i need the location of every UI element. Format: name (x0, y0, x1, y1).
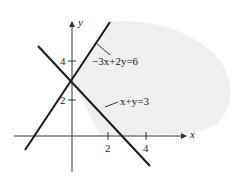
line-label-1: −3x+2y=6 (92, 55, 139, 67)
x-tick-label-2: 2 (105, 142, 111, 154)
y-tick-label-4: 4 (60, 55, 66, 67)
shaded-feasible-region (72, 21, 230, 135)
y-axis-label: y (77, 16, 83, 28)
x-axis-label: x (189, 128, 195, 140)
x-tick-label-4: 4 (143, 142, 149, 154)
graph-canvas: 2 4 4 2 x y −3x+2y=6 x+y=3 (0, 0, 238, 179)
line-label-2: x+y=3 (120, 95, 149, 107)
